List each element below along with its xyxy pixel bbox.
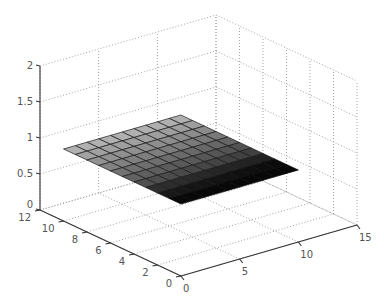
x-tick-mark	[176, 276, 181, 277]
y-tick-mark	[298, 242, 301, 246]
x-axis-ticks: 024681012	[18, 210, 181, 289]
z-tick-label: 2	[27, 60, 33, 71]
y-tick-mark	[181, 276, 184, 280]
z-tick-mark	[36, 173, 40, 174]
z-tick-mark	[36, 209, 40, 210]
z-tick-mark	[36, 137, 40, 138]
x-tick-mark	[59, 221, 64, 222]
y-tick-label: 15	[359, 232, 372, 243]
y-tick-label: 0	[183, 283, 189, 294]
x-tick-mark	[153, 265, 158, 266]
x-tick-label: 0	[166, 278, 172, 289]
x-tick-mark	[129, 254, 134, 255]
x-tick-label: 8	[72, 234, 78, 245]
z-tick-label: 0	[27, 199, 33, 210]
x-tick-mark	[106, 243, 111, 244]
x-tick-label: 4	[119, 256, 125, 267]
x-tick-label: 6	[95, 245, 101, 256]
floor-grid-line	[99, 193, 240, 259]
surface-plot: 024681012 051015 00.511.52	[0, 0, 384, 299]
x-tick-label: 12	[18, 212, 31, 223]
z-tick-label: 1	[27, 132, 33, 143]
z-axis-ticks: 00.511.52	[17, 60, 40, 210]
wall-grid-line	[40, 15, 216, 66]
x-tick-label: 10	[42, 223, 55, 234]
z-tick-label: 1.5	[17, 96, 33, 107]
surface-mesh	[64, 115, 299, 204]
y-tick-label: 5	[242, 266, 248, 277]
z-tick-mark	[36, 65, 40, 66]
z-tick-mark	[36, 101, 40, 102]
x-tick-label: 2	[142, 267, 148, 278]
y-tick-mark	[357, 225, 360, 229]
y-tick-label: 10	[300, 249, 313, 260]
y-axis-ticks: 051015	[181, 225, 372, 294]
z-tick-label: 0.5	[17, 168, 33, 179]
x-tick-mark	[82, 232, 87, 233]
y-tick-mark	[240, 259, 243, 263]
